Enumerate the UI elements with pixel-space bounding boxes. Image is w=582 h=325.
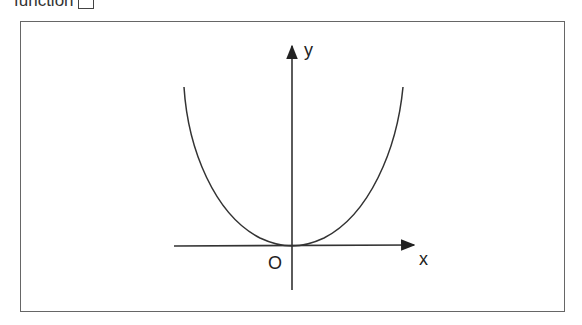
origin-label: O <box>268 254 282 272</box>
function-curve <box>184 87 403 246</box>
y-axis-label: y <box>304 41 313 59</box>
graph <box>0 0 582 325</box>
x-axis-label: x <box>419 250 428 268</box>
